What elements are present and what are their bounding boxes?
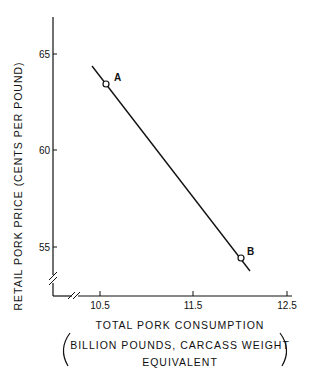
x-axis-title-line3: EQUIVALENT bbox=[142, 356, 218, 368]
x-axis-title-line1: TOTAL PORK CONSUMPTION bbox=[96, 319, 265, 331]
x-tick-label-10-5: 10.5 bbox=[90, 300, 110, 311]
point-b-marker bbox=[238, 255, 244, 261]
y-axis-title: RETAIL PORK PRICE (CENTS PER POUND) bbox=[12, 61, 24, 310]
x-tick-label-11-5: 11.5 bbox=[184, 300, 203, 311]
left-paren bbox=[63, 333, 70, 366]
y-tick-label-55: 55 bbox=[39, 242, 51, 253]
chart: 65 60 55 10.5 11.5 12.5 A B RETAIL PORK … bbox=[0, 0, 314, 387]
point-a-marker bbox=[103, 81, 109, 87]
x-axis-title-line2: BILLION POUNDS, CARCASS WEIGHT bbox=[70, 339, 290, 351]
point-a-label: A bbox=[114, 72, 121, 83]
x-tick-label-12-5: 12.5 bbox=[277, 300, 297, 311]
y-tick-label-60: 60 bbox=[39, 145, 51, 156]
point-b-label: B bbox=[247, 246, 254, 257]
demand-line bbox=[92, 66, 250, 271]
y-tick-label-65: 65 bbox=[39, 49, 51, 60]
